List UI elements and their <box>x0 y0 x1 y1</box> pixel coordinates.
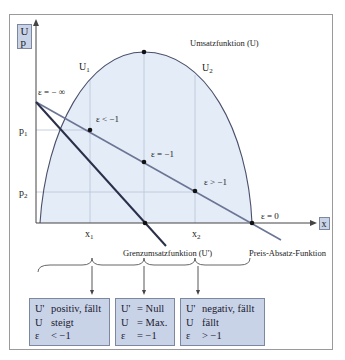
tick-x1: x1 <box>85 228 94 241</box>
y-axis-arrow-icon <box>33 19 39 26</box>
info-box-unit-elastic: U'= Null U= Max. ε= −1 <box>115 298 175 346</box>
tick-p1: p1 <box>19 125 28 138</box>
info-row: Usteigt <box>35 316 104 330</box>
down-arrows <box>92 266 198 292</box>
revenue-function-label: Umsatzfunktion (U) <box>190 38 259 48</box>
elasticity-less-than-minus-one: ε < −1 <box>96 114 119 124</box>
info-box-inelastic: U'negativ, fällt Ufällt ε> −1 <box>180 298 265 346</box>
x-axis-label: x <box>322 218 327 229</box>
arrow-down-icon <box>142 290 146 295</box>
revenue-area <box>40 52 252 223</box>
u2-label: U2 <box>202 62 213 75</box>
tick-p2: p2 <box>19 187 28 200</box>
info-row: Ufällt <box>186 316 259 330</box>
arrow-down-icon <box>90 290 94 295</box>
elasticity-zero: ε = 0 <box>261 211 279 221</box>
demand-function-label: Preis-Absatz-Funktion <box>249 248 327 258</box>
tick-x2: x2 <box>192 228 201 241</box>
info-row: U'negativ, fällt <box>186 302 259 316</box>
info-row: U'positiv, fällt <box>35 302 104 316</box>
info-row: U= Max. <box>121 316 169 330</box>
brace-right <box>144 258 250 265</box>
elasticity-greater-than-minus-one: ε > −1 <box>204 177 227 187</box>
marginal-revenue-label: Grenzumsatzfunktion (U') <box>123 248 212 258</box>
u1-label: U1 <box>79 61 90 74</box>
arrow-down-icon <box>196 290 200 295</box>
info-row: ε= −1 <box>121 329 169 343</box>
y-axis-label-p: p <box>21 36 27 48</box>
x-axis-arrow-icon <box>310 220 317 226</box>
info-row: ε> −1 <box>186 329 259 343</box>
elasticity-equals-minus-one: ε = −1 <box>151 149 174 159</box>
info-row: U'= Null <box>121 302 169 316</box>
info-box-elastic: U'positiv, fällt Usteigt ε< −1 <box>29 298 110 346</box>
elasticity-minus-infinity: ε = − ∞ <box>38 87 65 97</box>
brace-left <box>38 258 144 272</box>
info-row: ε< −1 <box>35 329 104 343</box>
